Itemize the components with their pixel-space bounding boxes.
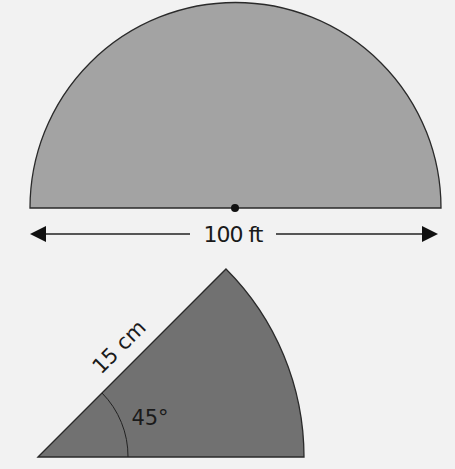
diameter-label: 100 ft <box>204 222 264 247</box>
arrowhead-right-icon <box>422 226 438 242</box>
center-dot <box>231 204 239 212</box>
semicircle-figure <box>30 2 441 212</box>
semicircle-shape <box>30 2 441 208</box>
arrowhead-left-icon <box>30 226 46 242</box>
sector-figure: 15 cm 45° <box>38 269 304 457</box>
angle-label: 45° <box>131 406 168 430</box>
sector-shape <box>38 269 304 457</box>
diagram-canvas: 100 ft 15 cm 45° <box>0 0 455 469</box>
diameter-dimension: 100 ft <box>30 222 438 247</box>
